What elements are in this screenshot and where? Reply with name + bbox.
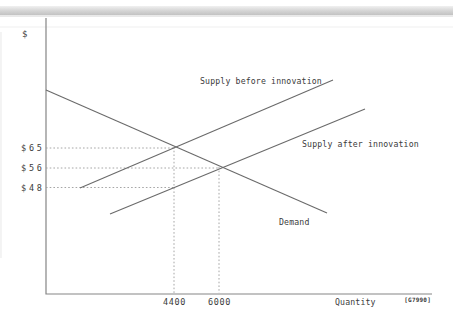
supply-before-curve — [80, 80, 333, 188]
supply-demand-chart: $ Quantity $65 $56 $48 4400 6000 Supply … — [0, 0, 453, 321]
demand-label: Demand — [279, 217, 309, 227]
demand-curve — [46, 90, 327, 213]
supply-before-label: Supply before innovation — [200, 76, 322, 86]
y-axis-dollar-label: $ — [22, 29, 27, 39]
scan-top-band-edge — [0, 15, 453, 17]
x-axis-quantity-label: Quantity — [335, 297, 376, 307]
supply-after-curve — [110, 109, 365, 214]
price-label-48: $48 — [21, 183, 45, 193]
price-label-56: $56 — [21, 163, 45, 173]
quantity-label-6000: 6000 — [208, 297, 231, 307]
xy-axes — [46, 18, 432, 294]
figure-tag: [G7990] — [404, 296, 431, 303]
quantity-label-4400: 4400 — [163, 297, 186, 307]
scan-top-band — [0, 6, 453, 15]
supply-after-label: Supply after innovation — [302, 139, 419, 149]
scanned-economics-figure: $ Quantity $65 $56 $48 4400 6000 Supply … — [0, 0, 453, 321]
price-label-65: $65 — [21, 143, 45, 153]
